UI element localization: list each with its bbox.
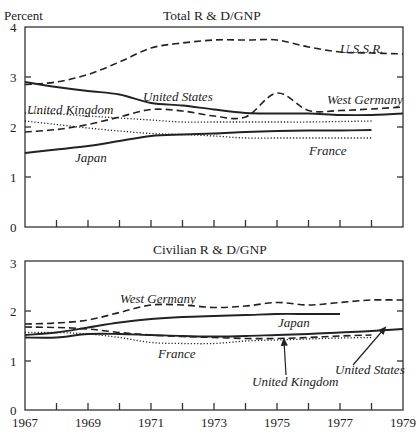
series-label-france: France: [308, 143, 347, 158]
series-label-west-germany: West Germany: [120, 291, 196, 306]
x-ticks-bottom: [57, 403, 372, 410]
x-tick-1971: 1971: [138, 415, 164, 430]
y-tick-0: 0: [10, 220, 17, 235]
y-tick-4: 4: [10, 20, 17, 35]
x-ticks-top: [57, 220, 372, 227]
y-tick-2: 2: [10, 304, 17, 319]
y-tick-1: 1: [10, 354, 17, 369]
y-tick-1: 1: [10, 170, 17, 185]
series-label-u-s-s-r: U.S.S.R.: [340, 41, 383, 56]
x-tick-1973: 1973: [201, 415, 227, 430]
x-tick-1977: 1977: [327, 415, 354, 430]
x-tick-1975: 1975: [264, 415, 290, 430]
rd-gnp-chart: Percent Total R & D/GNP 0 1 2 3 4 U.S.S.…: [0, 0, 417, 432]
series-line-west-germany: [25, 300, 403, 324]
panel-title-civilian: Civilian R & D/GNP: [153, 242, 267, 257]
y-tick-2: 2: [10, 120, 17, 135]
arrow-icon: [284, 341, 286, 375]
series-bottom: [25, 300, 403, 344]
y-tick-3: 3: [10, 256, 17, 271]
x-tick-1967: 1967: [12, 415, 39, 430]
series-label-united-kingdom: United Kingdom: [252, 374, 338, 389]
series-label-united-kingdom: United Kingdom: [27, 102, 113, 117]
series-label-japan: Japan: [75, 150, 107, 165]
plot-frame-top: [25, 27, 403, 227]
panel-total-rd: Percent Total R & D/GNP 0 1 2 3 4 U.S.S.…: [4, 8, 403, 235]
y-tick-3: 3: [10, 70, 17, 85]
series-label-united-states: United States: [143, 89, 213, 104]
series-label-west-germany: West Germany: [327, 92, 403, 107]
x-tick-1979: 1979: [390, 415, 416, 430]
series-label-japan: Japan: [278, 315, 310, 330]
x-tick-labels: 1967 1969 1971 1973 1975 1977 1979: [12, 415, 416, 430]
panel-civilian-rd: Civilian R & D/GNP 0 1 2 3 1967 1969 197…: [10, 242, 416, 430]
panel-title-total: Total R & D/GNP: [163, 8, 261, 23]
series-label-united-states: United States: [335, 362, 405, 377]
x-tick-1969: 1969: [75, 415, 101, 430]
series-labels-bottom: West GermanyJapanFranceUnited KingdomUni…: [120, 291, 405, 389]
series-label-france: France: [157, 346, 196, 361]
